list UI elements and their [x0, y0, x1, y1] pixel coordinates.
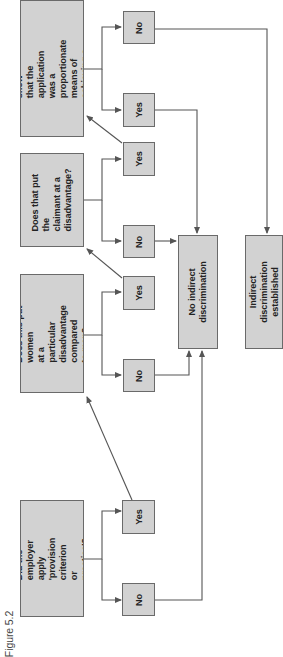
question-text: Can the employer show that the applicati…	[20, 39, 84, 97]
answer-box-q3-yes: Yes	[123, 142, 155, 176]
answer-label: No	[134, 235, 145, 247]
answer-label: Yes	[134, 151, 145, 167]
result-box-no-indirect-discrimination: No indirect discrimination	[178, 235, 218, 349]
answer-label: No	[133, 593, 144, 605]
answer-label: Yes	[133, 509, 144, 525]
answer-box-q4-yes: Yes	[123, 93, 155, 127]
answer-box-q1-no: No	[122, 583, 155, 616]
answer-box-q1-yes: Yes	[122, 500, 155, 534]
answer-box-q2-no: No	[123, 359, 155, 392]
question-text: Did the employer apply 'provision criter…	[20, 537, 84, 580]
answer-box-q4-no: No	[123, 11, 155, 44]
answer-label: No	[134, 21, 145, 33]
result-box-indirect-discrimination-established: Indirect discrimination established	[245, 235, 283, 349]
question-box-q2: Does this put women at a particular disa…	[20, 274, 84, 393]
question-box-q1: Did the employer apply 'provision criter…	[20, 500, 84, 617]
figure-label: Figure 5.2	[0, 615, 18, 653]
question-box-q3: Does that put the claimant at a disadvan…	[20, 153, 84, 247]
question-text: Does that put the claimant at a disadvan…	[30, 168, 74, 231]
result-text: No indirect discrimination	[187, 261, 209, 322]
result-text: Indirect discrimination established	[248, 261, 281, 322]
answer-box-q2-yes: Yes	[123, 276, 155, 310]
answer-label: Yes	[134, 102, 145, 118]
answer-box-q3-no: No	[123, 225, 155, 258]
answer-label: Yes	[134, 285, 145, 301]
question-text: Does this put women at a particular disa…	[20, 305, 84, 363]
figure-label-text: Figure 5.2	[4, 611, 15, 657]
answer-label: No	[134, 369, 145, 381]
question-box-q4: Can the employer show that the applicati…	[20, 0, 84, 137]
